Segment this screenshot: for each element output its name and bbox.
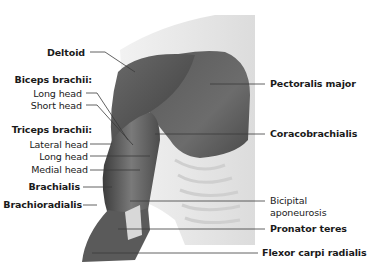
label-triceps-brachii: Triceps brachii: [12, 124, 92, 135]
label-bicipital: Bicipital [270, 195, 307, 206]
label-triceps-long-head: Long head [39, 151, 88, 162]
label-coracobrachialis: Coracobrachialis [270, 128, 357, 139]
label-biceps-brachii: Biceps brachii: [15, 74, 92, 85]
label-deltoid: Deltoid [47, 47, 85, 58]
label-flexor-carpi-radialis: Flexor carpi radialis [262, 247, 367, 258]
label-brachialis: Brachialis [28, 181, 80, 192]
label-biceps-long-head: Long head [33, 88, 82, 99]
label-brachioradialis: Brachioradialis [3, 199, 82, 210]
label-pronator-teres: Pronator teres [270, 223, 347, 234]
label-triceps-lateral-head: Lateral head [29, 139, 88, 150]
label-aponeurosis: aponeurosis [270, 207, 327, 218]
label-triceps-medial-head: Medial head [31, 164, 88, 175]
label-pectoralis-major: Pectoralis major [270, 78, 356, 89]
label-biceps-short-head: Short head [31, 100, 82, 111]
